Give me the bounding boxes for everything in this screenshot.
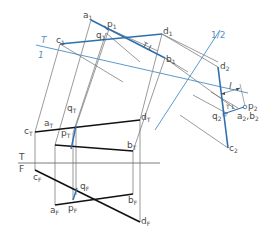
label-dT: dT	[141, 112, 151, 123]
fold-label-1: 1	[38, 50, 44, 60]
skew-lines-diagram: T F T 1 1/2	[0, 0, 274, 237]
label-pT: pT	[61, 128, 71, 139]
label-c1: c1	[56, 35, 65, 46]
fold-label-t-aux: T	[41, 35, 48, 45]
label-d2: d2	[220, 61, 230, 72]
label-a2-b2: a2,b2	[237, 111, 259, 122]
label-c2: c2	[229, 143, 238, 154]
label-true-length-2: T L	[225, 103, 236, 110]
label-p1: p1	[107, 19, 117, 30]
label-b1: b1	[166, 54, 176, 65]
label-q1: q1	[96, 30, 106, 41]
label-qF: qF	[80, 181, 90, 192]
label-bF: bF	[128, 195, 138, 206]
label-dF: dF	[141, 216, 151, 227]
fold-label-f: F	[19, 164, 24, 174]
fold-label-1-2: 1/2	[211, 30, 225, 40]
label-d1: d1	[163, 26, 173, 37]
label-aF: aF	[50, 205, 60, 216]
label-qT: qT	[67, 103, 77, 114]
label-pF: pF	[68, 203, 78, 214]
fold-line-tf: T F	[18, 152, 160, 174]
label-q2: q2	[212, 111, 222, 122]
label-aT: aT	[44, 118, 54, 129]
label-a1: a1	[83, 10, 93, 21]
fold-label-t: T	[18, 152, 25, 162]
label-cT: cT	[24, 126, 33, 137]
label-bT: bT	[127, 140, 137, 151]
